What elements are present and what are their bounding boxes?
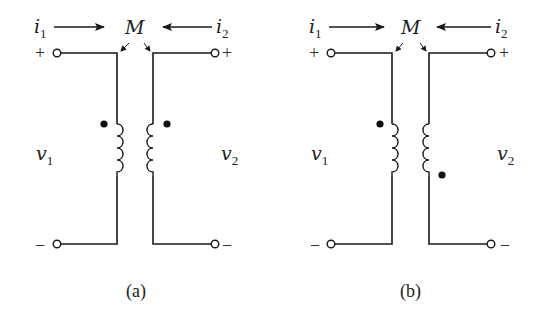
- right-bottom-wire: [153, 176, 211, 244]
- right-bottom-wire: [429, 176, 487, 244]
- panel-b: i1 M i2 + + – – v1 v2 (b): [309, 15, 514, 302]
- sign-bottom-left: –: [310, 235, 320, 252]
- voltage-v2-label: v2: [497, 142, 514, 168]
- sign-top-left: +: [309, 43, 319, 63]
- polarity-dot-primary: [100, 120, 107, 127]
- terminal-top-right: [487, 49, 495, 57]
- mutual-inductance-label: M: [124, 16, 145, 38]
- left-bottom-wire: [335, 176, 392, 244]
- panel-b-caption: (b): [400, 281, 421, 302]
- terminal-bottom-left: [327, 240, 335, 248]
- primary-coil: [117, 124, 123, 176]
- sign-bottom-left: –: [35, 235, 45, 252]
- current-i1-label: i1: [34, 15, 47, 41]
- sign-bottom-right: –: [500, 235, 510, 252]
- sign-bottom-right: –: [222, 235, 232, 252]
- current-i1-label: i1: [309, 15, 322, 41]
- sign-top-right: +: [499, 43, 509, 63]
- mutual-pointer-left: [121, 43, 129, 51]
- current-i2-label: i2: [216, 15, 229, 41]
- mutual-pointer-right: [420, 43, 426, 51]
- mutual-pointer-left: [396, 43, 403, 51]
- secondary-coil: [147, 124, 153, 176]
- terminal-top-right: [211, 49, 219, 57]
- sign-top-left: +: [35, 43, 45, 63]
- voltage-v1-label: v1: [36, 142, 53, 168]
- terminal-bottom-right: [211, 240, 219, 248]
- left-bottom-wire: [61, 176, 117, 244]
- panel-a-caption: (a): [126, 281, 146, 302]
- panel-a: i1 M i2 + + – – v1 v2 (a): [34, 15, 238, 302]
- mutual-pointer-right: [144, 43, 150, 51]
- primary-coil: [392, 124, 398, 176]
- left-top-wire: [61, 53, 117, 124]
- terminal-bottom-left: [53, 240, 61, 248]
- polarity-dot-secondary: [163, 120, 170, 127]
- terminal-top-left: [53, 49, 61, 57]
- mutual-inductance-label: M: [400, 16, 421, 38]
- left-top-wire: [335, 53, 392, 124]
- terminal-top-left: [327, 49, 335, 57]
- coupled-inductors-figure: i1 M i2 + + – – v1 v2 (a) i1: [0, 0, 542, 312]
- secondary-coil: [423, 124, 429, 176]
- right-top-wire: [429, 53, 487, 124]
- terminal-bottom-right: [487, 240, 495, 248]
- voltage-v1-label: v1: [311, 142, 328, 168]
- current-i2-label: i2: [495, 15, 508, 41]
- right-top-wire: [153, 53, 211, 124]
- polarity-dot-secondary: [438, 171, 445, 178]
- voltage-v2-label: v2: [221, 142, 238, 168]
- polarity-dot-primary: [376, 120, 383, 127]
- sign-top-right: +: [222, 43, 232, 63]
